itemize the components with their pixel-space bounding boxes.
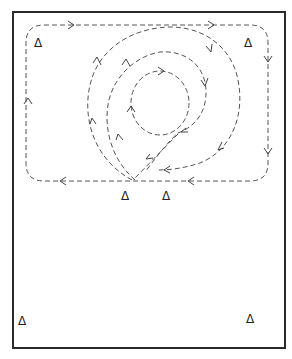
arrow-up-icon bbox=[122, 59, 130, 66]
arena-diagram: Δ Δ Δ Δ Δ Δ bbox=[0, 0, 292, 359]
large-spiral-path bbox=[88, 27, 240, 180]
arena-frame bbox=[13, 12, 285, 348]
middle-spiral-arrows bbox=[116, 59, 208, 159]
cone-marker-icon: Δ bbox=[34, 36, 43, 50]
cone-marker-icon: Δ bbox=[121, 189, 130, 203]
arrow-up-icon bbox=[90, 118, 96, 124]
large-spiral-arrows bbox=[90, 44, 224, 173]
arrow-down-icon bbox=[146, 154, 153, 159]
cone-markers: Δ Δ Δ Δ Δ Δ bbox=[18, 36, 255, 328]
arrow-up-icon bbox=[127, 106, 135, 112]
cone-marker-icon: Δ bbox=[162, 189, 171, 203]
crossing-path bbox=[133, 134, 178, 180]
cone-marker-icon: Δ bbox=[18, 314, 27, 328]
arrow-up-icon bbox=[116, 134, 123, 140]
arrow-up-icon bbox=[24, 98, 32, 104]
cone-marker-icon: Δ bbox=[246, 312, 255, 326]
arrow-down-icon bbox=[206, 44, 212, 52]
arrow-up-icon bbox=[93, 57, 101, 65]
inner-circle-path bbox=[131, 71, 189, 135]
inner-circle-arrows bbox=[127, 67, 164, 112]
outer-track-arrows bbox=[24, 21, 272, 185]
arrow-down-icon bbox=[218, 142, 224, 150]
cone-marker-icon: Δ bbox=[244, 36, 253, 50]
